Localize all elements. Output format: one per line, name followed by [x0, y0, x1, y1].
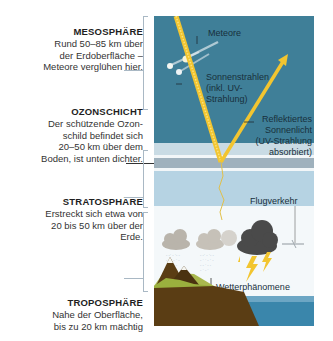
stratosphere-line-2: 20 bis 50 km über der — [45, 220, 143, 232]
mesosphere-connector — [124, 70, 144, 71]
mesosphere-line-1: Rund 50–85 km über — [43, 38, 143, 50]
troposphere-bracket — [143, 212, 148, 292]
sunrays-label-2: (inkl. UV- — [206, 83, 243, 93]
mesosphere-label: MESOSPHÄRE Rund 50–85 km über der Erdobe… — [43, 26, 143, 73]
mesosphere-bracket — [143, 16, 148, 110]
reflected-label-3: (UV-Strahlung — [255, 136, 312, 146]
ozone-line-1: Der schützende Ozon- — [41, 118, 143, 130]
sunrays-label-3: Strahlung) — [206, 94, 248, 104]
stratosphere-line-3: Erde. — [45, 231, 143, 243]
troposphere-connector — [124, 278, 144, 279]
mesosphere-line-2: der Erdoberfläche – — [43, 50, 143, 62]
stratosphere-label: STRATOSPHÄRE Erstreckt sich etwa von 20 … — [45, 196, 143, 243]
ozone-line-2: schild befindet sich — [41, 130, 143, 142]
ozone-layer — [154, 158, 314, 168]
troposphere-title: TROPOSPHÄRE — [52, 297, 143, 309]
meteors-label: Meteore — [208, 28, 241, 38]
troposphere-label: TROPOSPHÄRE Nahe der Oberfläche, bis zu … — [52, 297, 143, 332]
reflected-label-1: Reflektiertes — [262, 114, 313, 124]
reflected-label-4: absorbiert) — [269, 147, 312, 157]
troposphere-line-1: Nahe der Oberfläche, — [52, 309, 143, 321]
air-traffic-label: Flugverkehr — [250, 196, 298, 206]
stratosphere-connector — [124, 197, 144, 198]
atmosphere-illustration: Meteore Sonnenstrahlen (inkl. UV- Strahl… — [154, 16, 314, 326]
reflected-label-2: Sonnenlicht — [265, 125, 313, 135]
stratosphere-bracket — [143, 150, 148, 208]
mesosphere-title: MESOSPHÄRE — [43, 26, 143, 38]
stratosphere-line-1: Erstreckt sich etwa von — [45, 208, 143, 220]
troposphere-line-2: bis zu 20 km mächtig — [52, 321, 143, 333]
svg-text:- · - ·: - · - · — [200, 267, 209, 272]
ozone-title: OZONSCHICHT — [41, 106, 143, 118]
ozone-line-3: 20–50 km über dem — [41, 141, 143, 153]
sunrays-label-1: Sonnenstrahlen — [206, 72, 269, 82]
ozone-label: OZONSCHICHT Der schützende Ozon- schild … — [41, 106, 143, 164]
